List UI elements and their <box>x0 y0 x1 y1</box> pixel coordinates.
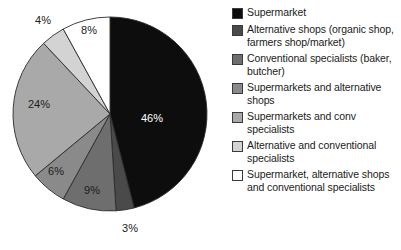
legend-item-label: Supermarket, alternative shops and conve… <box>247 168 401 193</box>
legend-item-label: Supermarkets and conv specialists <box>247 110 401 135</box>
legend-item-label: Alternative and conventional specialists <box>247 139 401 164</box>
legend-item-label: Alternative shops (organic shop, farmers… <box>247 23 401 48</box>
pie-slice-label-supermarkets-and-conv-specialists: 24% <box>28 98 50 110</box>
pie-chart-plot-area: 46%3%9%6%24%4%8% <box>0 0 225 250</box>
legend-item[interactable]: Conventional specialists (baker, butcher… <box>232 52 401 77</box>
legend-item[interactable]: Alternative shops (organic shop, farmers… <box>232 23 401 48</box>
pie-slice-label-alternative-and-conventional-specialists: 4% <box>35 14 51 26</box>
pie-chart-svg: 46%3%9%6%24%4%8% <box>0 0 225 250</box>
legend-item-label: Supermarkets and alternative shops <box>247 81 401 106</box>
pie-slice-label-alternative-shops: 3% <box>122 222 138 234</box>
legend-swatch-conventional-specialists <box>232 54 243 65</box>
legend-item[interactable]: Supermarket, alternative shops and conve… <box>232 168 401 193</box>
legend-swatch-supermarket <box>232 8 243 19</box>
legend-swatch-supermarket-alternative-conventional <box>232 170 243 181</box>
legend-swatch-supermarkets-and-alternative-shops <box>232 83 243 94</box>
chart-legend: SupermarketAlternative shops (organic sh… <box>232 6 401 250</box>
legend-item[interactable]: Supermarkets and conv specialists <box>232 110 401 135</box>
pie-slice-label-conventional-specialists: 9% <box>84 184 100 196</box>
legend-item[interactable]: Supermarket <box>232 6 401 19</box>
legend-item[interactable]: Supermarkets and alternative shops <box>232 81 401 106</box>
legend-item-label: Supermarket <box>247 6 306 19</box>
pie-slice-label-supermarket: 46% <box>141 112 163 124</box>
pie-slice-label-supermarket-alternative-conventional: 8% <box>81 24 97 36</box>
legend-swatch-alternative-shops <box>232 25 243 36</box>
legend-item[interactable]: Alternative and conventional specialists <box>232 139 401 164</box>
legend-item-label: Conventional specialists (baker, butcher… <box>247 52 401 77</box>
legend-swatch-supermarkets-and-conv-specialists <box>232 112 243 123</box>
pie-slice-label-supermarkets-and-alternative-shops: 6% <box>48 165 64 177</box>
pie-chart-figure: 46%3%9%6%24%4%8% SupermarketAlternative … <box>0 0 401 250</box>
legend-swatch-alternative-and-conventional-specialists <box>232 141 243 152</box>
